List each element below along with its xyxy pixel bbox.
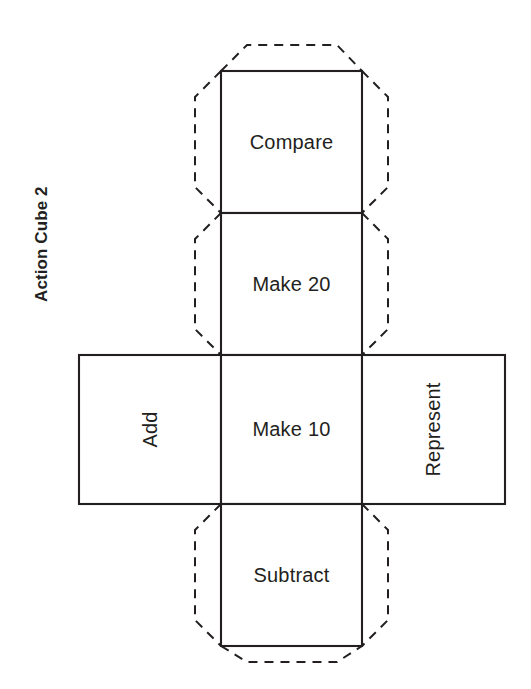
face-label-compare: Compare xyxy=(221,71,362,213)
glue-tab-compare-top-edge xyxy=(221,45,362,71)
face-label-add: Add xyxy=(76,359,225,501)
glue-tab-make20-left xyxy=(195,213,221,355)
face-label-make-20: Make 20 xyxy=(221,213,362,355)
cube-net-diagram: Action Cube 2 Compare Make 20 Add Make 1… xyxy=(0,0,531,689)
face-label-make-10: Make 10 xyxy=(221,355,362,504)
glue-tab-subtract-bottom xyxy=(221,646,362,662)
face-label-represent: Represent xyxy=(359,358,508,501)
glue-tab-compare-right xyxy=(362,71,388,213)
glue-tab-subtract-left xyxy=(195,504,221,646)
face-label-subtract: Subtract xyxy=(221,504,362,646)
glue-tab-compare-top xyxy=(195,71,221,213)
glue-tab-make20-right xyxy=(362,213,388,355)
glue-tab-subtract-right xyxy=(362,504,388,646)
